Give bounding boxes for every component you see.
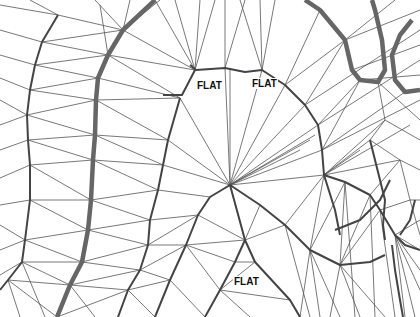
tin-edge	[220, 290, 250, 317]
tin-edge	[0, 140, 28, 150]
tin-edge	[28, 140, 93, 160]
tin-edge	[128, 280, 170, 290]
tin-edge	[186, 245, 235, 262]
tin-edge	[30, 160, 93, 165]
tin-edge	[370, 120, 385, 140]
tin-edge	[400, 160, 420, 170]
tin-edge	[310, 250, 340, 317]
tin-edge	[0, 165, 30, 178]
tin-edge	[220, 290, 290, 300]
tin-edge	[0, 30, 42, 42]
tin-edge	[0, 78, 30, 90]
tin-diagram: FLAT FLAT FLAT	[0, 0, 420, 317]
tin-edge	[195, 0, 215, 70]
tin-edge	[168, 140, 230, 185]
tin-edge	[230, 125, 318, 185]
tin-edge	[27, 115, 95, 135]
tin-edge	[340, 265, 360, 317]
tin-triangle-edges	[0, 0, 420, 317]
tin-edge	[285, 40, 345, 85]
index-contour-lines	[57, 0, 420, 317]
tin-edge	[91, 190, 158, 200]
tin-edge	[42, 42, 108, 55]
tin-edge	[400, 160, 410, 200]
tin-mesh-canvas	[0, 0, 420, 317]
tin-edge	[28, 135, 95, 140]
flat-label-1: FLAT	[196, 80, 223, 91]
contour-line	[400, 200, 415, 235]
tin-edge	[30, 78, 98, 90]
contour-line	[0, 15, 58, 290]
tin-edge	[88, 230, 148, 245]
tin-edge	[35, 55, 108, 65]
tin-edge	[27, 100, 96, 115]
tin-edge	[25, 240, 82, 262]
tin-edge	[35, 65, 98, 78]
tin-edge	[310, 182, 345, 250]
tin-edge	[8, 280, 20, 317]
tin-edge	[42, 30, 123, 42]
tin-edge	[340, 265, 385, 317]
tin-edge	[310, 250, 320, 317]
contour-line	[155, 185, 230, 317]
contour-line	[205, 185, 245, 317]
tin-edge	[128, 290, 155, 317]
tin-edge	[285, 175, 324, 225]
tin-edge	[82, 245, 148, 262]
tin-edge	[186, 245, 220, 290]
tin-edge	[198, 215, 245, 240]
contour-line	[230, 185, 385, 265]
contour-line	[118, 98, 180, 317]
tin-edge	[96, 100, 168, 140]
tin-edge	[30, 165, 91, 200]
index-contour-line	[392, 20, 420, 92]
tin-edge	[330, 265, 340, 317]
tin-edge	[96, 98, 180, 100]
tin-edge	[225, 0, 245, 68]
tin-edge	[93, 160, 158, 190]
tin-edge	[345, 0, 395, 40]
tin-edge	[91, 200, 150, 220]
tin-edge	[70, 285, 128, 290]
tin-edge	[88, 220, 150, 230]
tin-edge	[25, 230, 88, 240]
tin-edge	[158, 190, 210, 197]
flat-label-3: FLAT	[233, 276, 260, 287]
tin-edge	[240, 0, 262, 70]
tin-edge	[8, 280, 57, 317]
flat-label-2: FLAT	[251, 78, 278, 89]
tin-edge	[70, 270, 140, 285]
contour-line	[324, 175, 340, 235]
tin-edge	[285, 10, 320, 85]
tin-edge	[262, 0, 275, 70]
tin-edge	[30, 90, 96, 100]
tin-edge	[300, 250, 310, 317]
tin-edge	[0, 115, 27, 125]
tin-edge	[175, 0, 195, 70]
tin-edge	[225, 68, 230, 185]
tin-edge	[260, 0, 262, 70]
tin-edge	[95, 135, 168, 140]
tin-edge	[155, 0, 195, 70]
tin-edge	[140, 270, 170, 280]
tin-edge	[245, 205, 260, 240]
tin-edge	[186, 240, 245, 245]
tin-edge	[0, 55, 35, 65]
tin-edge	[385, 120, 420, 140]
contour-line	[163, 70, 195, 95]
tin-edge	[340, 182, 345, 265]
tin-edge	[82, 262, 140, 270]
tin-edge	[0, 200, 30, 205]
tin-edge	[310, 175, 324, 250]
tin-edge	[58, 15, 123, 30]
contour-lines	[0, 15, 420, 317]
tin-edge	[95, 0, 123, 30]
tin-edge	[230, 150, 300, 185]
tin-edge	[0, 225, 25, 240]
tin-edge	[70, 285, 95, 317]
tin-edge	[245, 225, 285, 240]
tin-edge	[30, 200, 88, 230]
tin-edge	[195, 0, 200, 70]
tin-edge	[305, 40, 345, 105]
tin-edge	[22, 262, 45, 317]
